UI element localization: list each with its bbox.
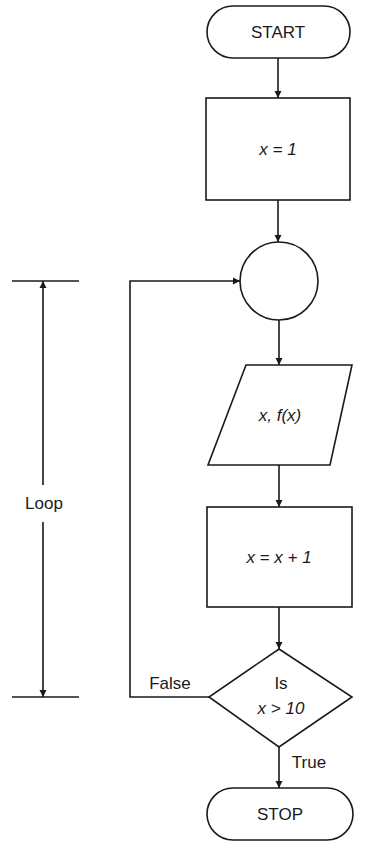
true-branch-label: True — [292, 754, 326, 771]
false-feedback-path — [130, 281, 240, 697]
stop-label: STOP — [257, 806, 303, 823]
decision-label-line1: Is — [274, 675, 287, 692]
false-branch-label: False — [149, 675, 191, 692]
decision-label-line2: x > 10 — [258, 700, 305, 717]
flowchart-canvas — [0, 0, 367, 849]
loop-connector-circle — [240, 242, 318, 320]
init-label: x = 1 — [259, 141, 296, 158]
loop-label: Loop — [25, 495, 63, 512]
output-label: x, f(x) — [259, 407, 302, 424]
increment-label: x = x + 1 — [246, 549, 311, 566]
start-label: START — [251, 24, 305, 41]
